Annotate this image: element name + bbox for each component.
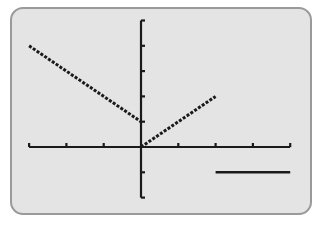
plot-series (29, 46, 290, 173)
piece-1-line (29, 46, 141, 122)
axes (29, 21, 290, 198)
graph-plot (0, 0, 318, 227)
axis-ticks (29, 21, 290, 198)
piece-2-line (141, 96, 216, 147)
